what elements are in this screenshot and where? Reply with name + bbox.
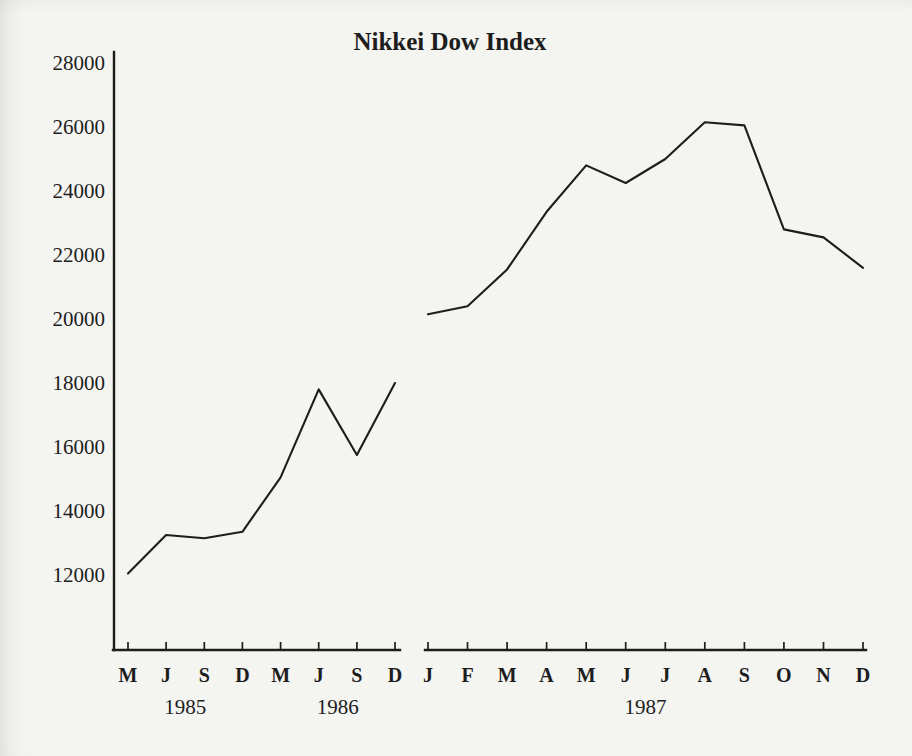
year-label: 1985 bbox=[164, 695, 206, 719]
year-label: 1987 bbox=[625, 695, 667, 719]
x-tick-label: S bbox=[739, 664, 750, 686]
x-tick-label: M bbox=[119, 664, 138, 686]
series-line-segment-2 bbox=[428, 122, 863, 314]
x-tick-label: D bbox=[856, 664, 870, 686]
x-tick-label: J bbox=[423, 664, 433, 686]
x-tick-label: M bbox=[271, 664, 290, 686]
y-tick-label: 22000 bbox=[53, 243, 106, 267]
y-tick-label: 14000 bbox=[53, 499, 106, 523]
x-tick-label: D bbox=[388, 664, 402, 686]
x-tick-label: F bbox=[461, 664, 473, 686]
x-tick-label: J bbox=[660, 664, 670, 686]
y-tick-label: 12000 bbox=[53, 563, 106, 587]
y-tick-label: 28000 bbox=[53, 51, 106, 75]
x-tick-label: S bbox=[351, 664, 362, 686]
scanned-chart-page: Nikkei Dow Index 12000140001600018000200… bbox=[0, 0, 912, 756]
x-tick-label: D bbox=[235, 664, 249, 686]
x-tick-label: M bbox=[498, 664, 517, 686]
x-tick-label: J bbox=[314, 664, 324, 686]
series-layer bbox=[128, 122, 863, 573]
series-line-segment-1 bbox=[128, 383, 395, 573]
x-tick-label: N bbox=[816, 664, 831, 686]
year-label: 1986 bbox=[317, 695, 359, 719]
nikkei-dow-index-chart: Nikkei Dow Index 12000140001600018000200… bbox=[0, 0, 912, 756]
y-tick-label: 18000 bbox=[53, 371, 106, 395]
x-tick-label: A bbox=[539, 664, 554, 686]
x-tick-label: J bbox=[161, 664, 171, 686]
y-tick-label: 24000 bbox=[53, 179, 106, 203]
x-tick-label: J bbox=[621, 664, 631, 686]
y-tick-label: 16000 bbox=[53, 435, 106, 459]
axis-layer: 1200014000160001800020000220002400026000… bbox=[53, 51, 871, 719]
x-tick-label: M bbox=[577, 664, 596, 686]
x-tick-label: S bbox=[199, 664, 210, 686]
chart-title: Nikkei Dow Index bbox=[353, 28, 547, 55]
x-tick-label: A bbox=[698, 664, 713, 686]
x-tick-label: O bbox=[776, 664, 792, 686]
y-tick-label: 20000 bbox=[53, 307, 106, 331]
y-tick-label: 26000 bbox=[53, 115, 106, 139]
